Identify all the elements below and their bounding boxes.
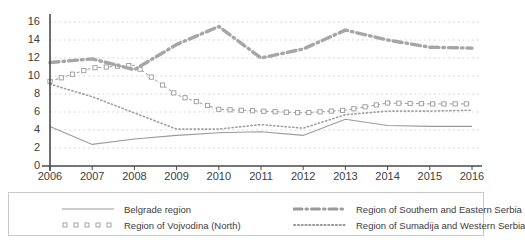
series-marker <box>93 66 97 70</box>
series-marker <box>239 108 243 112</box>
legend-item-label: Belgrade region <box>124 204 191 215</box>
series-marker <box>82 69 86 73</box>
x-tick-label: 2013 <box>325 170 365 182</box>
series-marker <box>363 105 367 109</box>
legend-item[interactable]: Region of Sumadija and Western Serbia <box>293 218 525 232</box>
series-marker <box>397 101 401 105</box>
series-marker <box>431 102 435 106</box>
legend-swatch-solid-icon <box>61 203 115 215</box>
series-marker <box>59 76 63 80</box>
series-region-of-vojvodina-north <box>48 63 472 114</box>
series-region-of-southern-and-eastern-serbia <box>50 27 472 70</box>
y-tick-label: 14 <box>18 33 40 45</box>
x-tick-label: 2016 <box>452 170 492 182</box>
y-tick-label: 12 <box>18 51 40 63</box>
x-tick-label: 2012 <box>283 170 323 182</box>
x-tick-label: 2010 <box>199 170 239 182</box>
series-marker <box>374 103 378 107</box>
series-marker <box>172 91 176 95</box>
legend-swatch-squares-icon <box>61 219 115 231</box>
series-marker <box>250 109 254 113</box>
legend-item-label: Region of Southern and Eastern Serbia <box>356 204 522 215</box>
series-marker <box>442 102 446 106</box>
x-tick-label: 2006 <box>30 170 70 182</box>
y-tick-label: 2 <box>18 141 40 153</box>
series-belgrade-region <box>50 119 472 144</box>
legend-item-label: Region of Vojvodina (North) <box>124 220 241 231</box>
series-marker <box>284 110 288 114</box>
series-marker <box>205 103 209 107</box>
y-tick-label: 8 <box>18 87 40 99</box>
legend-swatch-dotted-icon <box>293 219 347 231</box>
legend-swatch-dashdot-icon <box>293 203 347 215</box>
series-line <box>50 27 472 70</box>
series-line <box>50 119 472 144</box>
x-tick-label: 2014 <box>368 170 408 182</box>
series-marker <box>340 108 344 112</box>
axes-group <box>42 14 482 171</box>
legend-item[interactable]: Region of Southern and Eastern Serbia <box>293 202 522 216</box>
y-tick-label: 10 <box>18 69 40 81</box>
legend-item[interactable]: Belgrade region <box>61 202 191 216</box>
x-tick-label: 2008 <box>114 170 154 182</box>
series-marker <box>217 107 221 111</box>
y-tick-label: 4 <box>18 123 40 135</box>
x-tick-label: 2009 <box>157 170 197 182</box>
series-marker <box>273 110 277 114</box>
series-marker <box>464 102 468 106</box>
series-marker <box>386 101 390 105</box>
y-tick-label: 6 <box>18 105 40 117</box>
x-tick-label: 2011 <box>241 170 281 182</box>
series-line <box>50 84 472 129</box>
chart-legend: Belgrade regionRegion of Vojvodina (Nort… <box>8 192 484 236</box>
series-marker <box>295 111 299 115</box>
series-marker <box>194 100 198 104</box>
series-marker <box>228 108 232 112</box>
series-marker <box>352 107 356 111</box>
series-marker <box>262 109 266 113</box>
series-marker <box>329 109 333 113</box>
x-tick-label: 2015 <box>410 170 450 182</box>
series-marker <box>453 102 457 106</box>
series-marker <box>104 65 108 69</box>
series-marker <box>419 102 423 106</box>
x-tick-label: 2007 <box>72 170 112 182</box>
series-marker <box>318 110 322 114</box>
y-tick-label: 16 <box>18 15 40 27</box>
series-region-of-sumadija-and-western-serbia <box>50 84 472 129</box>
series-marker <box>160 83 164 87</box>
legend-item-label: Region of Sumadija and Western Serbia <box>356 220 525 231</box>
series-marker <box>70 72 74 76</box>
legend-item[interactable]: Region of Vojvodina (North) <box>61 218 241 232</box>
series-marker <box>149 75 153 79</box>
series-marker <box>408 101 412 105</box>
series-marker <box>183 96 187 100</box>
series-marker <box>307 110 311 114</box>
series-group <box>48 27 472 145</box>
